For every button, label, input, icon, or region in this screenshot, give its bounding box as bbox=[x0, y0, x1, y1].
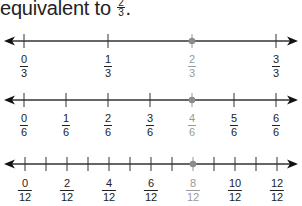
fraction-numerator: 8 bbox=[186, 178, 200, 191]
number-lines-diagram bbox=[0, 0, 302, 206]
fraction-label: 56 bbox=[230, 113, 238, 138]
fraction-label: 1212 bbox=[270, 178, 284, 203]
fraction-label: 612 bbox=[144, 178, 158, 203]
fraction-label: 13 bbox=[104, 54, 112, 79]
fraction-numerator: 6 bbox=[272, 113, 280, 126]
fraction-denominator: 6 bbox=[104, 126, 112, 138]
highlighted-point bbox=[189, 97, 196, 104]
fraction-numerator: 4 bbox=[102, 178, 116, 191]
fraction-label: 66 bbox=[272, 113, 280, 138]
fraction-denominator: 6 bbox=[146, 126, 154, 138]
fraction-denominator: 12 bbox=[144, 191, 158, 203]
fraction-label: 23 bbox=[188, 54, 196, 79]
fraction-numerator: 0 bbox=[20, 54, 28, 67]
fraction-numerator: 5 bbox=[230, 113, 238, 126]
fraction-denominator: 6 bbox=[230, 126, 238, 138]
fraction-numerator: 4 bbox=[188, 113, 196, 126]
fraction-label: 33 bbox=[272, 54, 280, 79]
fraction-denominator: 6 bbox=[188, 126, 196, 138]
fraction-denominator: 12 bbox=[102, 191, 116, 203]
fraction-denominator: 3 bbox=[188, 67, 196, 79]
fraction-label: 812 bbox=[186, 178, 200, 203]
highlighted-point bbox=[190, 161, 197, 168]
fraction-denominator: 6 bbox=[20, 126, 28, 138]
fraction-label: 1012 bbox=[228, 178, 242, 203]
fraction-denominator: 3 bbox=[272, 67, 280, 79]
fraction-numerator: 3 bbox=[272, 54, 280, 67]
fraction-numerator: 1 bbox=[62, 113, 70, 126]
fraction-denominator: 12 bbox=[186, 191, 200, 203]
fraction-label: 26 bbox=[104, 113, 112, 138]
highlighted-point bbox=[189, 38, 196, 45]
fraction-denominator: 12 bbox=[270, 191, 284, 203]
fraction-denominator: 12 bbox=[60, 191, 74, 203]
fraction-label: 46 bbox=[188, 113, 196, 138]
fraction-numerator: 6 bbox=[144, 178, 158, 191]
fraction-numerator: 2 bbox=[104, 113, 112, 126]
fraction-denominator: 12 bbox=[228, 191, 242, 203]
fraction-denominator: 3 bbox=[20, 67, 28, 79]
fraction-numerator: 3 bbox=[146, 113, 154, 126]
fraction-denominator: 3 bbox=[104, 67, 112, 79]
fraction-numerator: 10 bbox=[228, 178, 242, 191]
fraction-numerator: 1 bbox=[104, 54, 112, 67]
fraction-numerator: 2 bbox=[188, 54, 196, 67]
fraction-label: 03 bbox=[20, 54, 28, 79]
fraction-denominator: 6 bbox=[272, 126, 280, 138]
number-line-12 bbox=[4, 157, 298, 171]
number-line-3 bbox=[4, 34, 298, 48]
fraction-label: 06 bbox=[20, 113, 28, 138]
fraction-label: 012 bbox=[18, 178, 32, 203]
fraction-label: 36 bbox=[146, 113, 154, 138]
fraction-label: 16 bbox=[62, 113, 70, 138]
fraction-numerator: 0 bbox=[20, 113, 28, 126]
fraction-numerator: 0 bbox=[18, 178, 32, 191]
fraction-numerator: 12 bbox=[270, 178, 284, 191]
fraction-label: 412 bbox=[102, 178, 116, 203]
fraction-denominator: 12 bbox=[18, 191, 32, 203]
fraction-numerator: 2 bbox=[60, 178, 74, 191]
fraction-label: 212 bbox=[60, 178, 74, 203]
fraction-denominator: 6 bbox=[62, 126, 70, 138]
number-line-6 bbox=[4, 93, 298, 107]
